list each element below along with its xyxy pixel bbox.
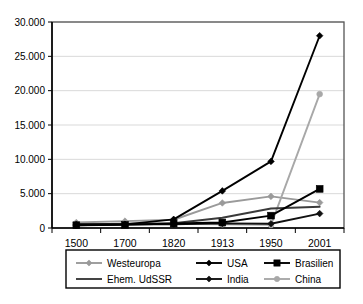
legend-label: India [227,274,249,285]
data-point-5 [317,91,323,97]
legend-swatch-marker [274,260,280,266]
data-point-5 [316,185,323,192]
x-axis-label-2: 1820 [162,237,186,249]
x-axis-label-4: 1950 [259,237,283,249]
y-axis-label-2: 10.000 [14,154,45,165]
y-axis-label-0: 0 [39,223,45,234]
legend-swatch-marker [274,276,279,281]
y-axis-label-1: 5.000 [20,188,45,199]
x-axis-label-1: 1700 [113,237,137,249]
y-axis-label-3: 15.000 [14,120,45,131]
legend-label: Ehem. UdSSR [107,274,172,285]
legend-label: Brasilien [295,258,333,269]
x-axis-label-3: 1913 [211,237,235,249]
data-point-5 [316,210,323,217]
series-line [76,36,319,226]
y-axis-label-6: 30.000 [14,17,45,28]
chart-container: 05.00010.00015.00020.00025.00030.0001500… [0,0,363,304]
x-axis-label-5: 2001 [308,237,332,249]
data-point-3 [219,219,226,226]
data-point-3 [219,200,226,207]
data-point-5 [316,32,323,39]
data-point-4 [268,212,275,219]
y-axis-label-4: 20.000 [14,85,45,96]
data-point-5 [316,199,323,206]
legend-label: USA [227,258,248,269]
y-axis-label-5: 25.000 [14,51,45,62]
x-axis-label-0: 1500 [65,237,89,249]
legend-label: China [295,274,322,285]
legend-label: Westeuropa [107,258,161,269]
line-chart: 05.00010.00015.00020.00025.00030.0001500… [0,0,363,304]
